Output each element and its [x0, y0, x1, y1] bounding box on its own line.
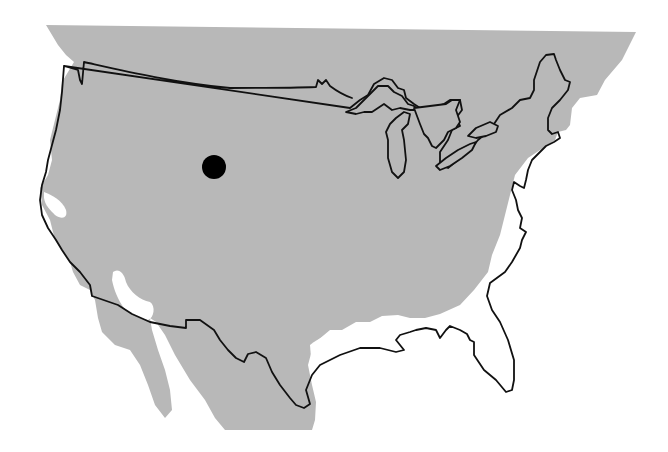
range-map [0, 0, 668, 452]
location-marker [202, 155, 226, 179]
shaded-range-region [40, 25, 636, 430]
map-canvas [0, 0, 668, 452]
